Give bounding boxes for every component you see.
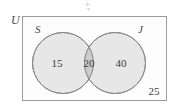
count-outside-sets: 25 (143, 86, 165, 97)
set-label-j: J (138, 24, 143, 35)
scan-artifact-mark (85, 2, 92, 11)
artifact-stroke-c (87, 8, 90, 9)
universal-set-label: U (11, 14, 20, 26)
venn-diagram-figure: U S J 15 20 40 25 (0, 0, 176, 111)
count-s-only: 15 (46, 58, 68, 69)
artifact-stroke-d (88, 9, 89, 11)
set-label-s: S (35, 24, 41, 35)
count-intersection: 20 (78, 58, 100, 69)
count-j-only: 40 (110, 58, 132, 69)
artifact-stroke-b (85, 4, 90, 5)
artifact-stroke-a (87, 2, 88, 6)
